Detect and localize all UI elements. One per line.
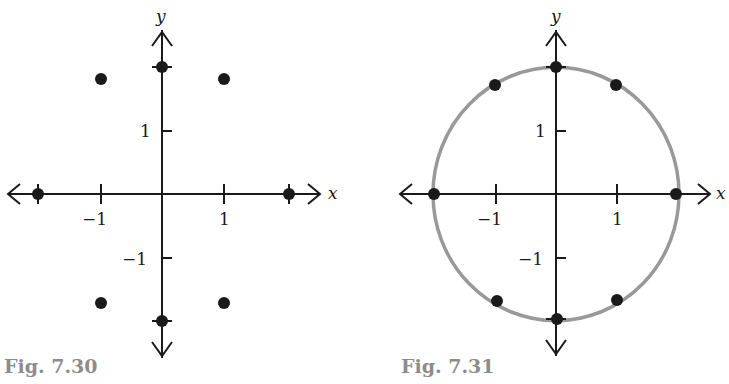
x-tick-label-neg1: −1 bbox=[477, 209, 502, 229]
data-point bbox=[283, 188, 295, 200]
data-point bbox=[489, 79, 501, 91]
figure-7-31 bbox=[400, 30, 710, 356]
y-tick-label-1: 1 bbox=[140, 121, 151, 141]
data-point bbox=[156, 61, 168, 73]
x-axis-label: x bbox=[716, 183, 726, 203]
figure-7-30 bbox=[8, 30, 320, 358]
y-axis-label: y bbox=[155, 6, 166, 26]
data-point bbox=[218, 297, 230, 309]
data-point bbox=[670, 188, 682, 200]
y-axis-label: y bbox=[550, 6, 561, 26]
data-point bbox=[551, 313, 563, 325]
data-point bbox=[491, 295, 503, 307]
data-point bbox=[610, 79, 622, 91]
x-tick-label-1: 1 bbox=[219, 209, 230, 229]
figure-caption-7-31: Fig. 7.31 bbox=[401, 355, 495, 377]
figures-canvas: y x −1 1 1 −1 y x −1 1 1 −1 bbox=[0, 0, 729, 384]
y-tick-label-1: 1 bbox=[535, 121, 546, 141]
data-point bbox=[428, 188, 440, 200]
data-point bbox=[95, 297, 107, 309]
x-axis-label: x bbox=[328, 183, 338, 203]
data-point bbox=[95, 73, 107, 85]
figure-caption-7-30: Fig. 7.30 bbox=[4, 355, 98, 377]
y-tick-label-neg1: −1 bbox=[518, 249, 543, 269]
figure-7-30-labels: y x −1 1 1 −1 bbox=[82, 6, 338, 269]
data-point bbox=[218, 73, 230, 85]
data-point bbox=[550, 61, 562, 73]
y-tick-label-neg1: −1 bbox=[122, 249, 147, 269]
x-tick-label-1: 1 bbox=[612, 209, 623, 229]
data-point bbox=[32, 188, 44, 200]
x-tick-label-neg1: −1 bbox=[82, 209, 107, 229]
figure-7-31-labels: y x −1 1 1 −1 bbox=[477, 6, 726, 269]
data-point bbox=[611, 294, 623, 306]
data-point bbox=[156, 315, 168, 327]
